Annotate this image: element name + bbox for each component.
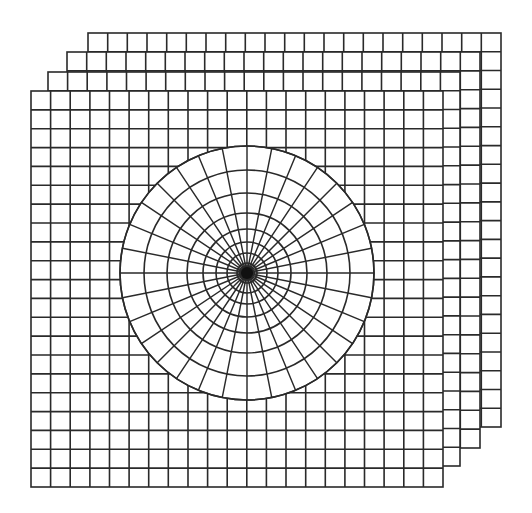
polar-grid xyxy=(120,146,374,400)
diagram-canvas xyxy=(0,0,532,513)
center-dot xyxy=(241,267,253,279)
stacked-grid-diagram xyxy=(0,0,532,513)
